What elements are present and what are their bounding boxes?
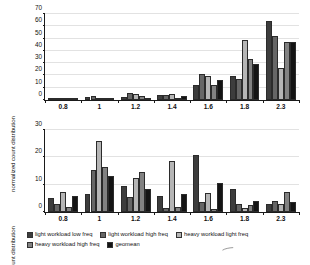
x-tick-mark: [226, 100, 227, 103]
x-tick-label: 1: [98, 103, 102, 110]
y-tick-mark: [43, 129, 46, 130]
legend-row: heavy workload high freqgeomean: [27, 240, 310, 250]
legend-swatch-icon: [27, 242, 33, 248]
legend-item[interactable]: heavy workload high freq: [27, 242, 99, 248]
legend-swatch-icon: [107, 242, 113, 248]
x-tick-label: 2.3: [276, 215, 285, 222]
legend-item[interactable]: heavy workload light freq: [176, 232, 248, 238]
x-tick-mark: [118, 212, 119, 215]
chart-panel-top: normalized count distribution 0102030405…: [0, 4, 310, 116]
y-tick-mark: [43, 50, 46, 51]
y-tick-mark: [43, 38, 46, 39]
y-tick-mark: [43, 25, 46, 26]
bars-top: [45, 14, 299, 100]
chart-panel-bottom: normalized count distribution 0102030 0.…: [0, 116, 310, 226]
bar: [181, 96, 187, 100]
x-tick-mark: [154, 212, 155, 215]
y-tick-mark: [43, 156, 46, 157]
y-tick-label: 20: [35, 147, 45, 154]
bars-bottom: [45, 130, 299, 212]
legend-swatch-icon: [176, 232, 182, 238]
legend-label: heavy workload high freq: [35, 242, 99, 248]
y-tick-mark: [43, 184, 46, 185]
plot-area-top: 010203040506070 0.811.21.41.61.82.3: [44, 14, 299, 101]
x-tick-mark: [226, 212, 227, 215]
x-tick-mark: [190, 100, 191, 103]
x-tick-label: 1.8: [240, 215, 249, 222]
x-tick-label: 0.8: [59, 215, 68, 222]
y-tick-mark: [43, 87, 46, 88]
legend-label: heavy workload light freq: [184, 232, 248, 238]
bar: [217, 80, 223, 100]
x-tick-mark: [45, 100, 46, 103]
y-tick-label: 30: [35, 53, 45, 60]
y-tick-label: 0: [38, 202, 45, 209]
bar: [72, 196, 78, 212]
x-tick-mark: [299, 212, 300, 215]
y-tick-label: 70: [35, 4, 45, 11]
legend-row: light workload low freqlight workload hi…: [27, 230, 310, 240]
legend-item[interactable]: geomean: [107, 242, 139, 248]
x-tick-mark: [81, 212, 82, 215]
x-tick-label: 1.4: [167, 215, 176, 222]
x-tick-mark: [263, 212, 264, 215]
y-tick-label: 60: [35, 16, 45, 23]
x-tick-label: 1.2: [131, 215, 140, 222]
handwriting-mark: [222, 247, 234, 251]
bar: [145, 98, 151, 100]
x-tick-label: 0.8: [59, 103, 68, 110]
x-tick-mark: [118, 100, 119, 103]
x-tick-label: 1.4: [167, 103, 176, 110]
y-tick-mark: [43, 62, 46, 63]
bar: [72, 98, 78, 100]
y-tick-label: 20: [35, 65, 45, 72]
x-tick-label: 2.3: [276, 103, 285, 110]
chart-legend: light workload low freqlight workload hi…: [0, 230, 310, 250]
bar: [169, 161, 175, 212]
legend-label: light workload high freq: [108, 232, 168, 238]
bar: [108, 176, 114, 212]
legend-label: geomean: [115, 242, 139, 248]
y-tick-mark: [43, 13, 46, 14]
x-tick-mark: [81, 100, 82, 103]
bar: [181, 194, 187, 212]
y-tick-mark: [43, 74, 46, 75]
bar: [290, 42, 296, 100]
x-tick-label: 1.8: [240, 103, 249, 110]
x-tick-mark: [154, 100, 155, 103]
x-tick-mark: [190, 212, 191, 215]
x-tick-label: 1: [98, 215, 102, 222]
legend-label: light workload low freq: [35, 232, 92, 238]
y-tick-label: 0: [38, 90, 45, 97]
x-tick-label: 1.6: [204, 103, 213, 110]
figure: normalized count distribution 0102030405…: [0, 0, 310, 265]
y-tick-label: 30: [35, 120, 45, 127]
legend-item[interactable]: light workload low freq: [27, 232, 92, 238]
y-tick-label: 10: [35, 174, 45, 181]
bar: [145, 189, 151, 212]
x-tick-mark: [263, 100, 264, 103]
bar: [253, 201, 259, 212]
y-tick-label: 40: [35, 40, 45, 47]
y-tick-label: 10: [35, 77, 45, 84]
y-tick-label: 50: [35, 28, 45, 35]
x-tick-mark: [45, 212, 46, 215]
bar: [290, 202, 296, 212]
legend-swatch-icon: [27, 232, 33, 238]
bar: [108, 98, 114, 100]
x-tick-label: 1.6: [204, 215, 213, 222]
bar: [217, 183, 223, 212]
legend-swatch-icon: [100, 232, 106, 238]
bar: [253, 64, 259, 100]
x-tick-label: 1.2: [131, 103, 140, 110]
plot-area-bottom: 0102030 0.811.21.41.61.82.3: [44, 130, 299, 213]
x-tick-mark: [299, 100, 300, 103]
legend-item[interactable]: light workload high freq: [100, 232, 168, 238]
